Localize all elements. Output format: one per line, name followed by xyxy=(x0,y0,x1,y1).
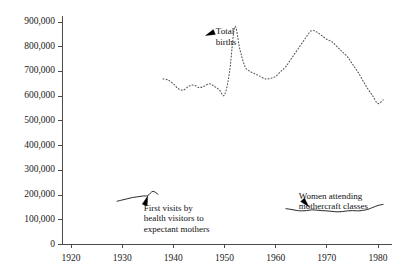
births-and-maternity-services-chart: 0100,000200,000300,000400,000500,000600,… xyxy=(0,0,406,280)
chart-plot-area xyxy=(0,0,406,280)
y-axis-tick-label: 700,000 xyxy=(24,66,55,76)
annotation-line: Women attending xyxy=(299,191,368,202)
y-axis-tick-label: 400,000 xyxy=(24,141,55,151)
y-axis-tick-label: 900,000 xyxy=(24,17,55,27)
y-axis-tick-label: 600,000 xyxy=(24,91,55,101)
annotation-line: First visits by xyxy=(144,203,210,214)
annotation-health-visitors: First visits byhealth visitors toexpecta… xyxy=(144,203,210,235)
annotation-line: births xyxy=(216,37,237,48)
y-axis-tick-label: 300,000 xyxy=(24,165,55,175)
x-axis-tick-label: 1970 xyxy=(307,254,347,264)
x-axis-tick-label: 1980 xyxy=(358,254,398,264)
x-axis-tick-label: 1960 xyxy=(256,254,296,264)
annotation-total-births: Totalbirths xyxy=(216,26,237,47)
annotation-line: mothercraft classes xyxy=(299,201,368,212)
annotation-line: Total xyxy=(216,26,237,37)
y-axis-tick-label: 200,000 xyxy=(24,190,55,200)
y-axis-tick-label: 0 xyxy=(50,240,55,250)
series-line-1 xyxy=(117,191,158,201)
y-axis-tick-label: 800,000 xyxy=(24,42,55,52)
annotation-arrow-icon-total-births xyxy=(206,30,216,36)
annotation-line: expectant mothers xyxy=(144,224,210,235)
y-axis-tick-label: 500,000 xyxy=(24,116,55,126)
x-axis-tick-label: 1930 xyxy=(102,254,142,264)
annotation-line: health visitors to xyxy=(144,213,210,224)
x-axis-tick-label: 1950 xyxy=(205,254,245,264)
x-axis-tick-label: 1940 xyxy=(153,254,193,264)
y-axis-tick-label: 100,000 xyxy=(24,215,55,225)
x-axis-tick-label: 1920 xyxy=(51,254,91,264)
annotation-mothercraft: Women attendingmothercraft classes xyxy=(299,191,368,212)
series-line-0 xyxy=(163,26,383,103)
